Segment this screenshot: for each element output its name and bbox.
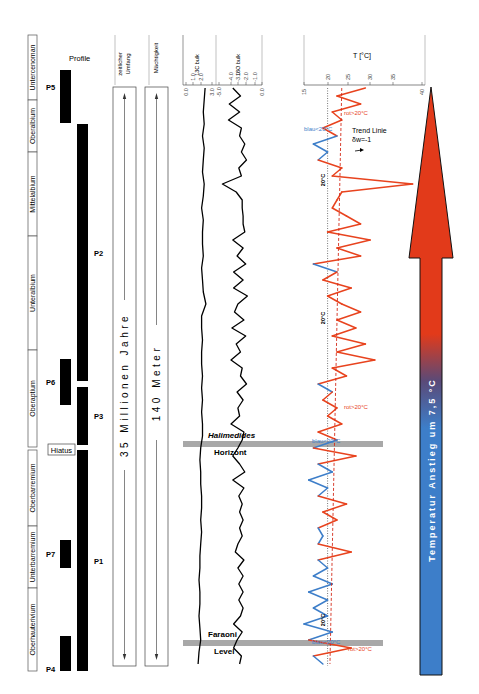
profile-label: P1 [94,557,103,566]
stage-unteralbium: Unteralbium [28,236,37,350]
temperature-annotation: rot>20°C [344,110,369,116]
stage-oberalbium: Oberalbium [28,100,37,152]
isotope-curves: Trend Linieδw=-1rot>20°Cblau<20°Crot>20°… [198,88,413,666]
stage-untercenoman: Untercenoman [28,35,37,100]
trend-slope-label: δw=-1 [352,136,371,143]
stage-label: Unterbarremium [29,532,36,583]
stage-label: Unteralbium [29,274,36,312]
arrow-label: Temperatur Anstieg um 7,5 °C [427,378,437,562]
time-header-2: Umfang [125,53,131,74]
stage-unterbarremium: Unterbarremium [28,526,37,588]
threshold-label: 20°C [320,614,326,626]
axis-tick-label: 35 [390,74,396,80]
temperature-rise-arrow: Temperatur Anstieg um 7,5 °C [409,87,453,675]
threshold-label: 20°C [320,312,326,324]
profile-p1: P1 [77,450,103,671]
temperature-axis-title: T [°C] [353,52,371,60]
thickness-header: Mächtigkeit [153,43,159,74]
d13c-curve [198,88,206,664]
d13C-axis-title: 13C bulk [194,54,200,76]
stage-label: Oberaptium [29,380,37,417]
profile-p2: P2 [77,124,103,381]
profile-label: P5 [46,83,55,92]
time-span-label: 35 Millionen Jahre [119,313,130,457]
profile-label: P3 [94,412,103,421]
trend-line-label: Trend Linie [352,127,387,134]
horizon-label-top: Halimedides [208,431,256,440]
horizon-bands: HalimedidesHorizontFaraoniLevel [183,431,383,656]
profile-label: P6 [46,378,55,387]
d18O-axis-title: 18O bulk [235,54,241,76]
stratigraphy-column: UntercenomanOberalbiumMittelalbiumUntera… [28,35,37,671]
axis-tick-label: 40 [419,89,425,95]
hiatus-text: Hiatus [51,446,73,455]
axis-tick-label: 30 [367,74,373,80]
axis-tick-label: 3.0 [209,88,215,96]
profile-p6: P6 [46,359,71,405]
profile-label: P4 [46,665,56,674]
stage-oberaptium: Oberaptium [28,350,37,447]
profile-p4: P4 [46,636,71,674]
axis-tick-label: 0.0 [259,88,265,96]
stage-label: Oberhauterivium [29,603,36,655]
axis-tick-label: -5.0 [216,87,222,96]
stage-oberbarremium: Oberbarremium [28,450,37,526]
axis-tick-label: -4.0 [228,72,234,81]
thickness-column: Mächtigkeit 140 Meter [145,35,183,666]
axis-tick-label: -1.0 [252,72,258,81]
stage-label: Mittelalbium [29,175,36,213]
threshold-label: 20°C [320,174,326,186]
profile-label: P7 [46,550,55,559]
profile-p3: P3 [77,387,103,445]
time-column: zeitlicher Umfang 35 Millionen Jahre [113,35,149,666]
profile-p5: P5 [46,70,71,123]
temperature-annotation: blau<20°C [312,438,341,444]
horizon-faraoni: FaraoniLevel [183,630,383,656]
thickness-label: 140 Meter [151,345,162,422]
trend-line [330,88,342,664]
stage-mittelalbium: Mittelalbium [28,152,37,236]
paleo-temperature-figure: UntercenomanOberalbiumMittelalbiumUntera… [0,0,479,694]
temperature-annotation: blau<20°C [312,639,341,645]
temperature-annotation: rot>20°C [348,646,373,652]
stage-label: Untercenoman [29,44,36,90]
temperature-annotation: blau<20°C [304,126,333,132]
stage-label: Oberalbium [29,108,36,144]
axis-tick-label: -2.0 [243,72,249,81]
horizon-halimedides: HalimedidesHorizont [183,431,383,457]
horizon-label-top: Faraoni [208,630,237,639]
axis-tick-label: 25 [345,74,351,80]
horizon-label-bottom: Level [214,647,234,656]
profiles-header: Profile [69,54,90,63]
time-header-1: zeitlicher [117,52,123,76]
profile-bars: P5P2P6P3P1P7P4 [46,70,103,674]
temperature-annotation: rot>20°C [344,404,369,410]
profile-p7: P7 [46,540,71,568]
d18o-curve [222,88,247,664]
hiatus-label: Hiatus [48,444,75,455]
profile-label: P2 [94,249,103,258]
stage-label: Oberbarremium [29,463,36,512]
axis-tick-label: 0.0 [183,88,189,96]
axis-tick-label: 20 [325,74,331,80]
horizon-label-bottom: Horizont [214,448,247,457]
axis-tick-label: 15 [301,89,307,95]
plot-axes: 0.01.02.03.013C bulk-5.0-4.0-3.0-2.0-1.0… [183,35,425,97]
stage-oberhauterivium: Oberhauterivium [28,588,37,671]
